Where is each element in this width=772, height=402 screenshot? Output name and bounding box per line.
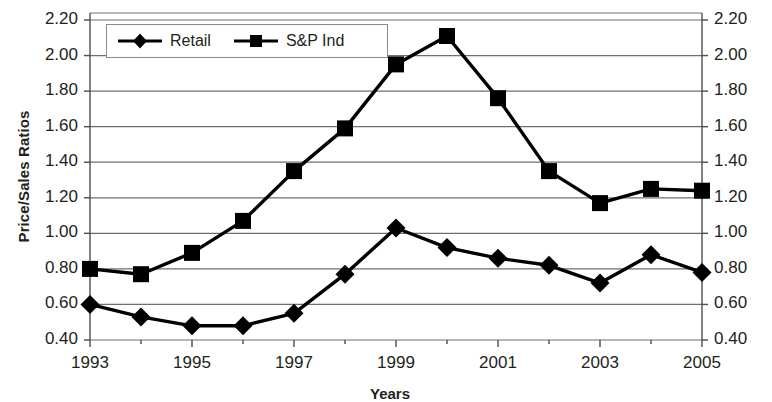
data-point-marker-square [592, 195, 608, 211]
data-point-marker-square [133, 266, 149, 282]
y-axis-tick-label-right: 1.20 [714, 187, 772, 207]
data-point-marker-diamond [642, 245, 661, 264]
data-point-marker-square [643, 181, 659, 197]
y-axis-tick-label-left: 0.60 [22, 293, 78, 313]
y-axis-tick-label-right: 1.80 [714, 80, 772, 100]
x-axis-tick-label: 1997 [259, 353, 329, 373]
chart-legend: Retail S&P Ind [106, 24, 388, 58]
y-axis-tick-label-right: 1.60 [714, 116, 772, 136]
data-point-marker-square [490, 90, 506, 106]
y-axis-tick-label-right: 1.00 [714, 222, 772, 242]
data-point-marker-diamond [132, 307, 151, 326]
y-axis-tick-label-left: 1.20 [22, 187, 78, 207]
legend-item-sp-ind: S&P Ind [233, 25, 344, 57]
y-axis-tick-label-left: 1.00 [22, 222, 78, 242]
x-axis-tick-label: 1993 [55, 353, 125, 373]
legend-item-retail: Retail [117, 25, 211, 57]
data-point-marker-diamond [234, 316, 253, 335]
data-point-marker-square [541, 163, 557, 179]
data-point-marker-diamond [693, 263, 712, 282]
plot-area [0, 0, 772, 402]
x-axis-tick-label: 2003 [565, 353, 635, 373]
data-point-marker-square [388, 56, 404, 72]
data-point-marker-square [439, 28, 455, 44]
y-axis-tick-label-left: 2.00 [22, 45, 78, 65]
data-point-marker-square [694, 183, 710, 199]
data-point-marker-diamond [591, 274, 610, 293]
data-point-marker-square [286, 163, 302, 179]
x-axis-tick-label: 1999 [361, 353, 431, 373]
data-point-marker-diamond [81, 295, 100, 314]
retail-series-marker-icon [117, 32, 163, 50]
y-axis-tick-label-right: 0.40 [714, 329, 772, 349]
y-axis-tick-label-left: 1.60 [22, 116, 78, 136]
data-point-marker-diamond [540, 256, 559, 275]
data-point-marker-square [235, 213, 251, 229]
y-axis-tick-label-right: 0.60 [714, 293, 772, 313]
y-axis-tick-label-right: 1.40 [714, 151, 772, 171]
x-axis-title: Years [90, 385, 690, 402]
series-line-retail [90, 228, 702, 326]
x-axis-tick-label: 2005 [667, 353, 737, 373]
y-axis-tick-label-left: 0.80 [22, 258, 78, 278]
y-axis-tick-label-left: 0.40 [22, 329, 78, 349]
legend-label-sp-ind: S&P Ind [286, 32, 344, 50]
y-axis-tick-label-right: 2.00 [714, 45, 772, 65]
data-point-marker-diamond [438, 238, 457, 257]
price-sales-ratio-chart: Price/Sales Ratios Retail S&P Ind Years … [0, 0, 772, 402]
x-axis-tick-label: 1995 [157, 353, 227, 373]
y-axis-tick-label-left: 1.80 [22, 80, 78, 100]
data-point-marker-square [82, 261, 98, 277]
legend-label-retail: Retail [170, 32, 211, 50]
y-axis-tick-label-left: 1.40 [22, 151, 78, 171]
y-axis-tick-label-left: 2.20 [22, 9, 78, 29]
y-axis-tick-label-right: 2.20 [714, 9, 772, 29]
data-point-marker-square [337, 120, 353, 136]
data-point-marker-diamond [183, 316, 202, 335]
x-axis-tick-label: 2001 [463, 353, 533, 373]
data-point-marker-diamond [489, 249, 508, 268]
y-axis-tick-label-right: 0.80 [714, 258, 772, 278]
data-point-marker-square [184, 245, 200, 261]
sp-ind-series-marker-icon [233, 32, 279, 50]
